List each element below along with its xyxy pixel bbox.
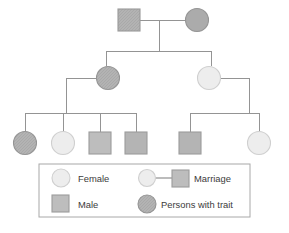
- person-iii-3-male-unaffected[interactable]: [89, 132, 111, 154]
- pedigree-connectors: [25, 20, 259, 132]
- person-iii-6-female-unaffected[interactable]: [248, 132, 271, 155]
- person-i-1-male-affected[interactable]: [118, 9, 140, 31]
- person-i-2-female-affected[interactable]: [186, 9, 209, 32]
- person-iii-1-female-affected[interactable]: [14, 132, 37, 155]
- legend-male-label: Male: [78, 199, 98, 210]
- generation-3: [14, 132, 271, 155]
- legend-marriage-label: Marriage: [194, 173, 231, 184]
- person-iii-5-male-unaffected[interactable]: [179, 132, 201, 154]
- person-ii-1-female-affected[interactable]: [97, 67, 120, 90]
- pedigree-chart: Female Marriage Male Persons with trait: [0, 0, 289, 233]
- legend-trait-icon: [138, 195, 156, 213]
- legend-trait-label: Persons with trait: [161, 199, 233, 210]
- generation-2: [97, 67, 221, 90]
- legend-female-label: Female: [78, 173, 109, 184]
- pedigree-diagram-canvas: Female Marriage Male Persons with trait: [0, 0, 289, 233]
- legend-marriage-female-icon: [139, 170, 156, 187]
- legend: Female Marriage Male Persons with trait: [39, 164, 250, 217]
- person-ii-2-female-unaffected[interactable]: [198, 67, 221, 90]
- legend-male-icon: [52, 195, 69, 212]
- legend-female-icon: [52, 169, 70, 187]
- person-iii-2-female-unaffected[interactable]: [52, 132, 75, 155]
- person-iii-4-male-unaffected[interactable]: [125, 132, 147, 154]
- legend-marriage-male-icon: [172, 170, 189, 187]
